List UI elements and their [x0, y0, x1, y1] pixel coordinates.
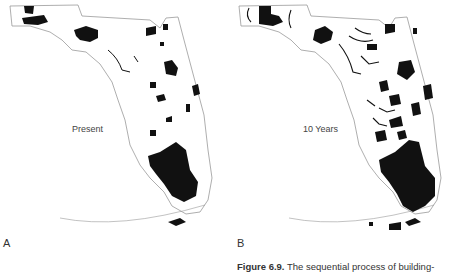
map-panel-b: [229, 0, 457, 230]
caption-text: The sequential process of building-: [287, 261, 434, 272]
florida-map-10-years: [229, 0, 457, 230]
florida-map-present: [0, 0, 228, 230]
caption-label: Figure 6.9.: [237, 261, 285, 272]
panel-letter-a: A: [3, 237, 10, 249]
map-label-present: Present: [72, 124, 103, 134]
map-panel-a: [0, 0, 228, 230]
map-label-10-years: 10 Years: [303, 124, 338, 134]
figure-caption: Figure 6.9. The sequential process of bu…: [237, 261, 434, 272]
panel-letter-b: B: [237, 237, 244, 249]
